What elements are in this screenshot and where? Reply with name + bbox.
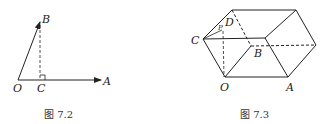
point-label-D: D bbox=[225, 17, 234, 28]
figure-7-3: D P C B O A 图 7.3 bbox=[0, 0, 330, 124]
parallelepiped-diagram bbox=[0, 0, 330, 124]
point-label-C: C bbox=[191, 35, 199, 46]
point-label-B: B bbox=[254, 48, 262, 59]
point-label-O: O bbox=[220, 82, 229, 93]
point-label-P: P bbox=[218, 25, 223, 32]
figure-caption: 图 7.3 bbox=[240, 110, 269, 120]
point-label-A: A bbox=[286, 82, 294, 93]
